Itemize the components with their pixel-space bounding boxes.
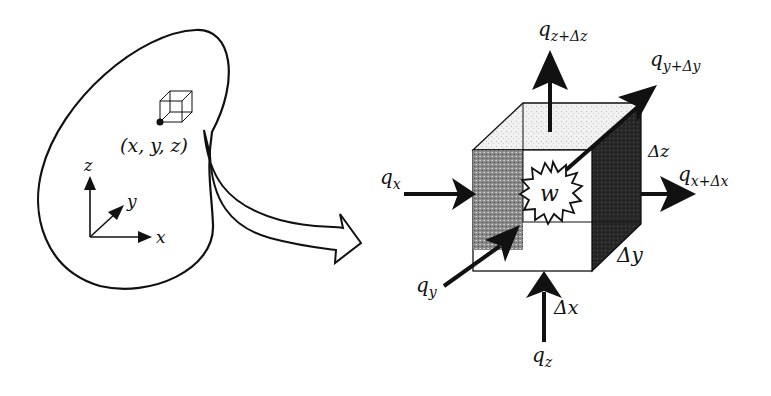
point-label: (x, y, z) xyxy=(120,134,188,156)
body-outline xyxy=(38,30,229,289)
label-qxdx: qx+Δx xyxy=(678,162,729,189)
label-dy: Δy xyxy=(616,243,643,267)
label-qydy: qy+Δy xyxy=(650,47,702,74)
body-region: (x, y, z) z y x xyxy=(38,30,361,289)
heat-balance-diagram: (x, y, z) z y x w xyxy=(0,0,771,396)
point-dot xyxy=(157,119,164,126)
label-qx: qx xyxy=(380,165,401,192)
axis-label-x: x xyxy=(156,227,166,247)
generation-label: w xyxy=(540,181,559,206)
axis-label-z: z xyxy=(83,156,93,175)
label-qzdz: qz+Δz xyxy=(538,17,588,44)
label-qz: qz xyxy=(532,343,553,370)
label-qy: qy xyxy=(416,273,438,300)
zoom-arrow-icon xyxy=(204,130,361,263)
axis-label-y: y xyxy=(126,191,137,211)
small-element-cube xyxy=(160,91,192,122)
coordinate-axes xyxy=(84,176,152,243)
label-dz: Δz xyxy=(647,141,670,161)
control-volume-element: w qx qx+Δx qz+Δz qy+Δy qy qz xyxy=(380,17,729,370)
label-dx: Δx xyxy=(553,296,579,318)
